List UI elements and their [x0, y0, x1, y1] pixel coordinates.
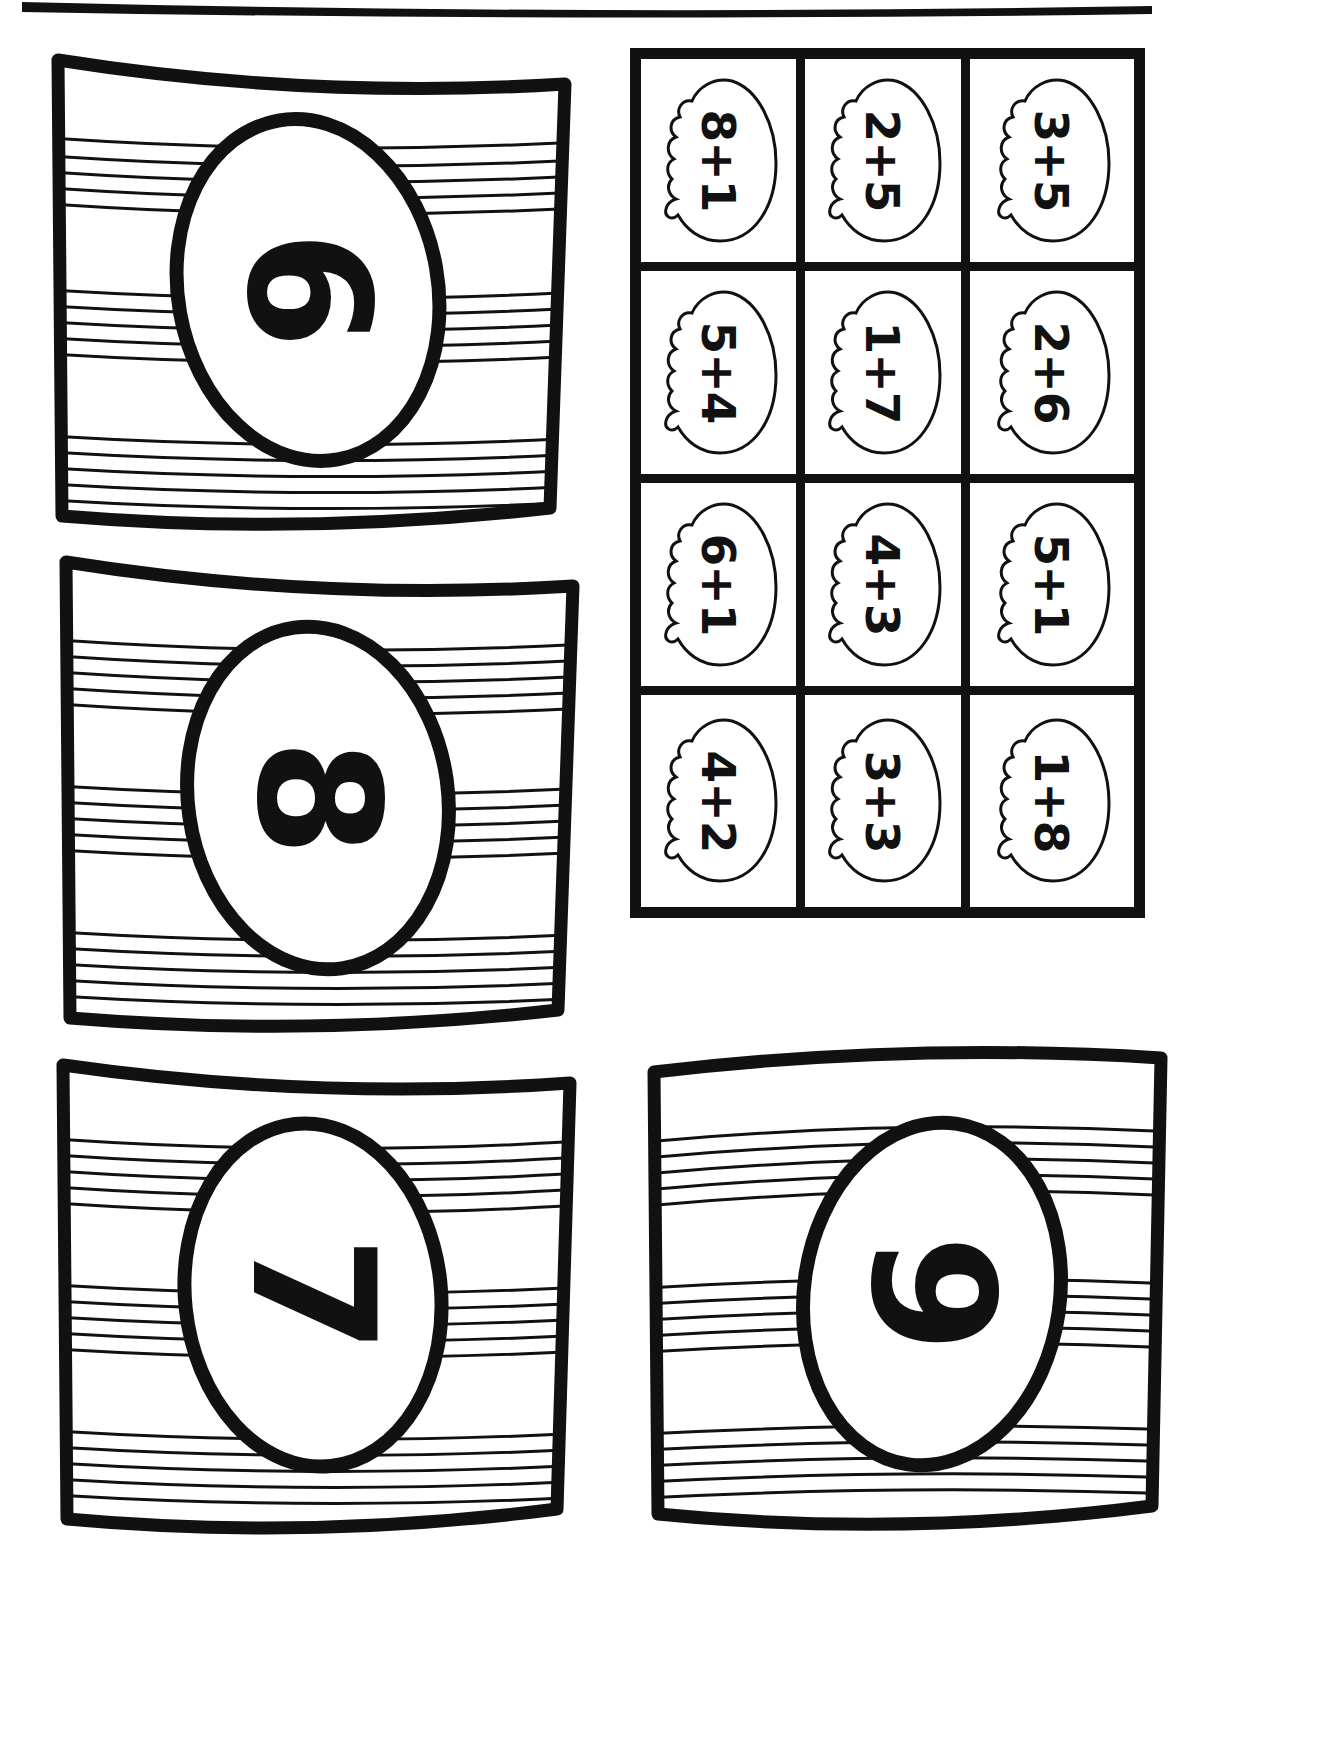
answer-digit: 8 [219, 739, 417, 857]
mini-egg: 6+1 [641, 483, 796, 686]
cut-out-card[interactable]: 4+2 [641, 695, 805, 907]
mini-egg: 4+3 [805, 483, 960, 686]
cut-out-card[interactable]: 5+4 [641, 271, 805, 483]
cut-out-card[interactable]: 4+3 [805, 483, 969, 695]
answer-digit: 9 [833, 1235, 1031, 1353]
worksheet-page: 6 [0, 0, 1338, 1738]
addition-expression: 3+5 [1028, 110, 1075, 212]
mini-egg: 8+1 [641, 59, 796, 262]
addition-expression: 5+1 [1028, 534, 1075, 636]
answer-digit: 7 [214, 1236, 412, 1354]
cut-off-card-edge [22, 0, 1152, 22]
mini-egg: 2+5 [805, 59, 960, 262]
mini-egg: 3+5 [970, 59, 1134, 262]
svg-text:7: 7 [214, 1236, 412, 1354]
answer-card-7[interactable]: 7 [45, 1043, 585, 1543]
svg-text:6: 6 [209, 231, 407, 349]
addition-expression: 3+3 [859, 750, 906, 852]
addition-expression: 6+1 [695, 534, 742, 636]
answer-digit: 6 [209, 231, 407, 349]
cut-out-card[interactable]: 1+7 [805, 271, 969, 483]
answer-card-9[interactable]: 9 [636, 1032, 1176, 1542]
svg-text:9: 9 [833, 1235, 1031, 1353]
cut-out-card[interactable]: 3+5 [970, 59, 1134, 271]
mini-egg: 1+7 [805, 271, 960, 474]
mini-egg: 4+2 [641, 695, 796, 907]
cut-out-card[interactable]: 5+1 [970, 483, 1134, 695]
addition-expression: 2+5 [859, 110, 906, 212]
cut-out-card[interactable]: 1+8 [970, 695, 1134, 907]
cut-out-card[interactable]: 2+5 [805, 59, 969, 271]
answer-card-8[interactable]: 8 [48, 540, 588, 1040]
answer-card-6[interactable]: 6 [40, 38, 580, 538]
mini-egg: 2+6 [970, 271, 1134, 474]
cut-out-card[interactable]: 8+1 [641, 59, 805, 271]
cut-out-card[interactable]: 3+3 [805, 695, 969, 907]
mini-egg: 3+3 [805, 695, 960, 907]
mini-egg: 5+4 [641, 271, 796, 474]
addition-expression: 5+4 [695, 322, 742, 424]
svg-text:8: 8 [219, 739, 417, 857]
addition-expression: 2+6 [1028, 322, 1075, 424]
addition-expression: 4+3 [859, 534, 906, 636]
addition-expression: 1+8 [1028, 750, 1075, 852]
addition-expression: 1+7 [859, 322, 906, 424]
mini-egg: 5+1 [970, 483, 1134, 686]
addition-expression: 4+2 [695, 750, 742, 852]
cut-out-card[interactable]: 2+6 [970, 271, 1134, 483]
cut-out-grid: 8+1 2+5 3+5 [630, 48, 1145, 918]
mini-egg: 1+8 [970, 695, 1134, 907]
cut-out-card[interactable]: 6+1 [641, 483, 805, 695]
addition-expression: 8+1 [695, 110, 742, 212]
